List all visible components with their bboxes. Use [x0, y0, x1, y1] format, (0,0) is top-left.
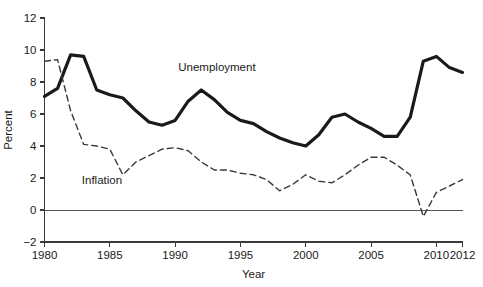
series-line-inflation [45, 60, 463, 217]
x-tick-label: 2000 [293, 249, 319, 261]
x-tick-label: 2010 [424, 249, 450, 261]
x-tick-label: 2005 [358, 249, 384, 261]
y-tick-label: 6 [30, 108, 36, 120]
y-tick-label: 12 [24, 12, 37, 24]
x-tick-label: 1990 [162, 249, 188, 261]
x-tick-label: 1980 [32, 249, 58, 261]
x-axis-group: 19801985199019952000200520102012 [32, 242, 476, 261]
y-axis-group: −2024681012 [23, 12, 44, 248]
line-chart-figure: −2024681012 1980198519901995200020052010… [0, 0, 483, 287]
y-tick-label: 10 [24, 44, 37, 56]
y-tick-label: 2 [30, 172, 36, 184]
x-tick-label: 2012 [450, 249, 476, 261]
y-axis-ticks [40, 18, 45, 242]
x-tick-label: 1995 [228, 249, 254, 261]
x-axis-ticks [45, 242, 463, 247]
series-paths [45, 55, 463, 217]
chart-container: −2024681012 1980198519901995200020052010… [0, 0, 483, 287]
series-label-unemployment: Unemployment [178, 61, 256, 73]
x-tick-label: 1985 [97, 249, 123, 261]
y-tick-label: 0 [30, 204, 36, 216]
x-axis-title: Year [242, 268, 265, 280]
x-axis-tick-labels: 19801985199019952000200520102012 [32, 249, 476, 261]
y-axis-tick-labels: −2024681012 [23, 12, 37, 248]
y-tick-label: −2 [23, 236, 36, 248]
y-tick-label: 8 [30, 76, 36, 88]
y-axis-title: Percent [2, 109, 14, 149]
series-label-inflation: Inflation [82, 174, 122, 186]
y-tick-label: 4 [30, 140, 37, 152]
